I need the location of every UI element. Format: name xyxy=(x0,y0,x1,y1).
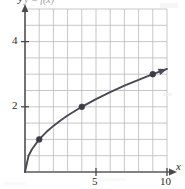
x-tick-label-10: 10 xyxy=(160,175,171,187)
axes xyxy=(22,4,177,175)
x-axis-label: x xyxy=(176,160,181,172)
function-label: y = f(x) xyxy=(24,0,54,5)
sqrt-function-plot xyxy=(0,0,185,189)
x-tick-label-5: 5 xyxy=(92,175,98,187)
y-axis-arrowhead xyxy=(22,4,29,12)
y-axis-label: y xyxy=(18,0,23,4)
y-tick-label-2: 2 xyxy=(12,99,18,111)
y-tick-label-4: 4 xyxy=(12,34,18,46)
figure-container: y = f(x) 4 2 5 10 x y xyxy=(0,0,185,189)
data-point-marker xyxy=(150,71,156,77)
data-point-marker xyxy=(36,137,42,143)
data-point-marker xyxy=(79,104,85,110)
